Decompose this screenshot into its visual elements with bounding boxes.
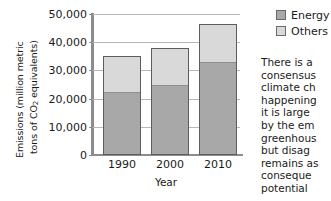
body-text-line: remains as (261, 157, 331, 170)
bar-2010[interactable] (199, 24, 237, 155)
bar-2000[interactable] (151, 48, 189, 155)
y-axis-title-suffix: equivalents) (28, 40, 39, 101)
body-text-line: There is a (261, 56, 331, 69)
x-tick-label-2010: 2010 (204, 158, 232, 171)
y-tick-label: 50,000 (49, 8, 88, 21)
bar-segment-others-1990[interactable] (104, 57, 140, 92)
bar-segment-energy-1990[interactable] (104, 92, 140, 154)
body-text-line: climate ch (261, 81, 331, 94)
body-text-line: greenhous (261, 132, 331, 145)
tick-mark (89, 42, 93, 43)
y-axis-title-line1: Emissions (million metric (14, 41, 25, 158)
legend-item-energy[interactable]: Energy (276, 8, 331, 22)
tick-mark (89, 99, 93, 100)
legend-item-others[interactable]: Others (276, 24, 331, 38)
y-axis-title-subscript: 2 (32, 101, 40, 105)
body-text-line: by the em (261, 119, 331, 132)
bar-segment-others-2000[interactable] (152, 49, 188, 85)
body-text-block: There is a consensus climate ch happenin… (261, 56, 331, 195)
y-axis-title-prefix: tons of CO (28, 105, 39, 154)
y-axis-title: Emissions (million metric tons of CO2 eq… (0, 0, 36, 170)
legend-label-energy: Energy (291, 9, 330, 22)
body-text-line: happening (261, 94, 331, 107)
legend-label-others: Others (291, 25, 328, 38)
tick-mark (89, 70, 93, 71)
body-text-line: it is large (261, 106, 331, 119)
body-text-line: consensus (261, 69, 331, 82)
y-tick-label: 10,000 (49, 120, 88, 133)
gridline (93, 14, 240, 15)
bar-segment-energy-2000[interactable] (152, 85, 188, 154)
y-tick-label: 0 (80, 149, 87, 162)
chart-legend: Energy Others (276, 8, 331, 40)
body-text-line: but disag (261, 144, 331, 157)
y-tick-label: 40,000 (49, 36, 88, 49)
y-tick-label: 20,000 (49, 92, 88, 105)
body-text-line: conseque (261, 169, 331, 182)
x-tick-label-2000: 2000 (156, 158, 184, 171)
tick-mark (89, 155, 93, 156)
tick-mark (89, 127, 93, 128)
plot-area: 50,000 40,000 30,000 20,000 10,000 0 (93, 14, 240, 155)
bar-1990[interactable] (103, 56, 141, 155)
chart-page: Emissions (million metric tons of CO2 eq… (0, 0, 331, 201)
y-tick-label: 30,000 (49, 64, 88, 77)
bar-segment-energy-2010[interactable] (200, 62, 236, 154)
legend-swatch-energy (276, 10, 286, 20)
x-axis-title: Year (155, 176, 177, 188)
y-axis-title-line2: tons of CO2 equivalents) (28, 40, 40, 154)
legend-swatch-others (276, 26, 286, 36)
x-tick-label-1990: 1990 (108, 158, 136, 171)
body-text-line: potential (261, 182, 331, 195)
bar-segment-others-2010[interactable] (200, 25, 236, 63)
tick-mark (89, 14, 93, 15)
